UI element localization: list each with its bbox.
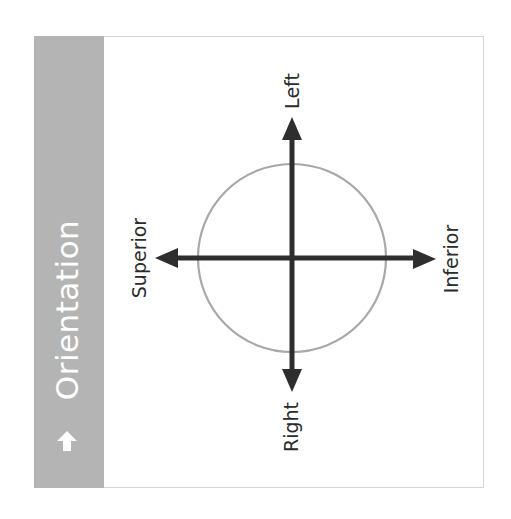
arrowhead-down-icon [282, 369, 302, 392]
label-top: Left [281, 73, 303, 109]
arrowhead-right-icon [413, 249, 436, 269]
label-right: Inferior [440, 225, 462, 294]
arrowhead-up-icon [282, 117, 302, 140]
label-bottom: Right [280, 402, 302, 452]
arrowhead-left-icon [155, 248, 178, 268]
label-left: Superior [128, 218, 150, 298]
orientation-diagram [0, 0, 511, 519]
